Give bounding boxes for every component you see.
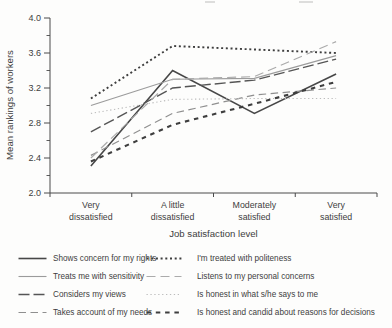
- legend-label: Is honest in what s/he says to me: [197, 290, 390, 299]
- x-axis-title: Job satisfaction level: [169, 228, 258, 239]
- y-tick-label: 4.0: [28, 13, 41, 23]
- series-line-1: [91, 56, 336, 106]
- y-axis-title: Mean rankings of workers: [4, 50, 15, 160]
- legend-label: Takes account of my needs: [47, 308, 146, 317]
- legend-row: Considers my views Is honest in what s/h…: [18, 285, 390, 303]
- series-line-5: [91, 42, 336, 158]
- legend-label: Considers my views: [47, 290, 146, 299]
- legend-swatch: [18, 271, 47, 282]
- category-label: dissatisfied: [69, 212, 113, 222]
- category-label: dissatisfied: [151, 212, 195, 222]
- y-tick-label: 3.2: [28, 83, 41, 93]
- plot-area: 2.02.42.83.23.64.0VerydissatisfiedA litt…: [0, 0, 392, 245]
- y-tick-label: 2.0: [28, 188, 41, 198]
- legend-row: Treats me with sensitivity Listens to my…: [18, 267, 390, 285]
- job-satisfaction-line-chart-figure: 2.02.42.83.23.64.0VerydissatisfiedA litt…: [0, 0, 392, 328]
- y-tick-label: 3.6: [28, 48, 41, 58]
- legend-label: Listens to my personal concerns: [197, 272, 390, 281]
- legend-label: Treats me with sensitivity: [47, 272, 146, 281]
- y-tick-label: 2.8: [28, 118, 41, 128]
- category-label: Very: [82, 200, 100, 210]
- legend-swatch: [146, 271, 197, 282]
- legend-swatch: [146, 253, 197, 264]
- legend-label: I'm treated with politeness: [197, 254, 390, 263]
- category-label: Moderately: [233, 200, 277, 210]
- legend-swatch: [18, 289, 47, 300]
- category-label: Very: [327, 200, 345, 210]
- legend-swatch: [18, 307, 47, 318]
- y-tick-label: 2.4: [28, 153, 41, 163]
- legend-swatch: [146, 307, 197, 318]
- series-line-0: [91, 71, 336, 166]
- category-label: satisfied: [320, 212, 352, 222]
- legend: Shows concern for my rights I'm treated …: [18, 249, 390, 321]
- category-label: satisfied: [238, 212, 270, 222]
- series-line-6: [91, 99, 336, 114]
- legend-row: Shows concern for my rights I'm treated …: [18, 249, 390, 267]
- legend-label: Shows concern for my rights: [47, 254, 146, 263]
- legend-label: Is honest and candid about reasons for d…: [197, 308, 390, 317]
- legend-swatch: [18, 253, 47, 264]
- legend-swatch: [146, 289, 197, 300]
- legend-row: Takes account of my needs Is honest and …: [18, 303, 390, 321]
- category-label: A little: [161, 200, 185, 210]
- series-line-2: [91, 59, 336, 132]
